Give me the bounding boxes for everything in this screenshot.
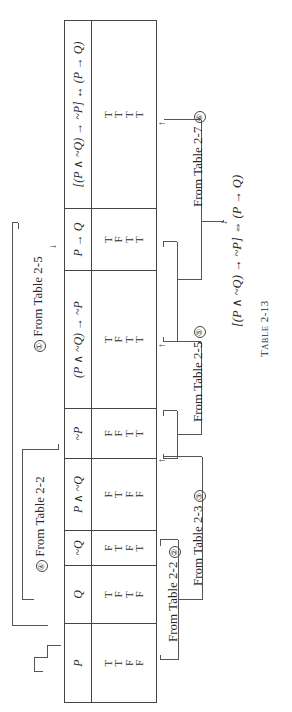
- cell: F: [134, 591, 145, 597]
- bracket-line: [22, 449, 58, 450]
- column-header: (P ∧ ~Q) → ~P: [65, 271, 92, 408]
- bracket-line: [178, 599, 202, 600]
- bracket-line: [163, 242, 164, 247]
- annotation-label: From Table 2-3: [190, 506, 205, 586]
- bracket-line: [177, 411, 178, 459]
- column-header: P → Q: [65, 209, 92, 270]
- annotation-step-3: From Table 2-3 ③: [190, 490, 206, 586]
- cell: T: [113, 491, 124, 498]
- cell: T: [134, 236, 145, 243]
- annotation-step-1: ① From Table 2-5: [30, 256, 46, 352]
- annotation-step-4: ④ From Table 2-2: [32, 476, 48, 572]
- bracket-line: [12, 625, 48, 626]
- arrow-up-icon: ↑: [157, 121, 167, 126]
- step-number: ②: [169, 546, 181, 558]
- column-p-implies-q: P → Q T F T T: [65, 209, 156, 271]
- cell: T: [134, 430, 145, 437]
- cell: T: [113, 660, 124, 667]
- bracket-line: [22, 450, 23, 600]
- column-implication-not-p: (P ∧ ~Q) → ~P T F T T: [65, 271, 156, 409]
- bracket-line: [164, 456, 202, 457]
- bracket-line: [47, 645, 61, 646]
- column-not-p: ~P F F T T: [65, 409, 156, 459]
- cell: F: [134, 660, 145, 666]
- cell: T: [134, 336, 145, 343]
- bracket-line: [177, 279, 201, 280]
- bracket-line: [34, 658, 35, 662]
- bracket-line: [163, 458, 177, 459]
- cell: F: [113, 591, 124, 597]
- column-header: P: [65, 624, 92, 702]
- column-q: Q T F T F: [65, 566, 156, 624]
- annotation-label: From Table 2-2: [165, 562, 180, 642]
- bracket-line: [34, 671, 43, 672]
- bracket-line: [34, 657, 47, 658]
- arrow-up-icon: ↑: [157, 343, 167, 348]
- caption-smallcaps: ABLE: [260, 326, 270, 350]
- arrow-down-icon: ↓: [219, 220, 229, 225]
- cell: T: [113, 545, 124, 552]
- column-header: [(P ∧ ~Q) → ~P] ↔ (P → Q): [65, 21, 92, 208]
- conclusion-formula: [(P ∧ ~Q) → ~P] ⇔ (P → Q): [229, 175, 245, 327]
- column-header: P ∧ ~Q: [65, 459, 92, 530]
- caption-number: 2-13: [258, 300, 270, 322]
- bracket-line: [47, 646, 48, 658]
- bracket-line: [12, 223, 13, 626]
- cell: F: [113, 430, 124, 436]
- bracket-line: [18, 223, 19, 229]
- bracket-line: [34, 662, 35, 672]
- annotation-step-6: From Table 2-7 ⑥: [190, 111, 206, 207]
- bracket-line: [58, 444, 59, 450]
- cell: F: [113, 336, 124, 342]
- step-number: ⑥: [194, 111, 206, 123]
- annotation-step-5: From Table 2-5 ⑤: [190, 326, 206, 422]
- bracket-line: [177, 434, 201, 435]
- bracket-line: [163, 410, 177, 411]
- column-header: ~P: [65, 409, 92, 458]
- cell: F: [113, 236, 124, 242]
- column-p-and-not-q: P ∧ ~Q F T F F: [65, 459, 156, 531]
- bracket-line: [163, 411, 164, 416]
- arrow-down-icon: ↓: [48, 244, 58, 249]
- rotated-page: P T T F F Q T F T F ~Q F T F T: [0, 0, 292, 712]
- bracket-line: [160, 540, 161, 546]
- table-caption: TABLE 2-13: [258, 300, 270, 357]
- column-biconditional: [(P ∧ ~Q) → ~P] ↔ (P → Q) T T T T: [65, 21, 156, 209]
- column-header: Q: [65, 566, 92, 623]
- cell: F: [134, 491, 145, 497]
- truth-table: P T T F F Q T F T F ~Q F T F T: [64, 20, 157, 703]
- annotation-label: From Table 2-5: [190, 342, 205, 422]
- bracket-line: [177, 242, 178, 342]
- bracket-line: [160, 659, 178, 660]
- annotation-label: From Table 2-5: [30, 256, 45, 336]
- step-number: ⑤: [194, 326, 206, 338]
- annotation-step-2: From Table 2-2 ②: [165, 546, 181, 642]
- step-number: ③: [194, 490, 206, 502]
- bracket-line: [160, 539, 178, 540]
- annotation-label: From Table 2-2: [32, 476, 47, 556]
- step-number: ①: [34, 340, 46, 352]
- cell: T: [134, 111, 145, 118]
- annotation-label: From Table 2-7: [190, 127, 205, 207]
- step-number: ④: [36, 560, 48, 572]
- caption-prefix: T: [258, 350, 270, 357]
- column-not-q: ~Q F T F T: [65, 531, 156, 566]
- column-p: P T T F F: [65, 624, 156, 702]
- cell: T: [134, 545, 145, 552]
- cell: T: [113, 111, 124, 118]
- bracket-line: [22, 599, 34, 600]
- column-header: ~Q: [65, 531, 92, 565]
- bracket-line: [163, 341, 177, 342]
- bracket-line: [163, 241, 177, 242]
